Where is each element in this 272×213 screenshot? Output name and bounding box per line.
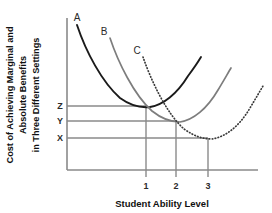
guide-x-level-c <box>67 138 208 170</box>
x-tick-label-2: 2 <box>173 181 178 191</box>
curve-c <box>143 57 263 139</box>
curve-label-a: A <box>74 12 81 23</box>
x-tick-label-1: 1 <box>143 181 148 191</box>
y-tick-label-z: Z <box>57 101 63 111</box>
y-axis-title-line-3: in Three Different Settings <box>31 38 41 153</box>
y-axis-title: Cost of Achieving Marginal and Absolute … <box>5 27 41 164</box>
x-tick-label-3: 3 <box>205 181 210 191</box>
y-axis-title-line-2: Absolute Benefits <box>18 56 28 134</box>
cost-ability-chart: Cost of Achieving Marginal and Absolute … <box>0 0 272 213</box>
y-tick-label-x: X <box>57 133 63 143</box>
y-axis-title-line-1: Cost of Achieving Marginal and <box>5 27 15 164</box>
x-axis-title: Student Ability Level <box>115 198 209 209</box>
y-tick-label-y: Y <box>57 116 63 126</box>
curve-b <box>110 38 231 122</box>
chart-container: Cost of Achieving Marginal and Absolute … <box>0 0 272 213</box>
guide-y-level-b <box>67 121 176 170</box>
curve-label-c: C <box>133 45 140 56</box>
curve-label-b: B <box>101 26 108 37</box>
